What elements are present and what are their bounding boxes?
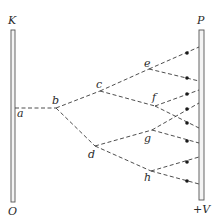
electron-dot [185, 160, 189, 164]
path-g-p6 [152, 130, 199, 143]
path-c-f [100, 91, 155, 106]
path-e-p2 [149, 69, 199, 81]
path-h-p8 [151, 171, 199, 184]
anode-bottom-label: +V [193, 203, 211, 216]
path-f-p3 [155, 90, 199, 106]
electron-dot [185, 121, 189, 125]
node-label-e: e [144, 57, 151, 70]
path-h-p7 [151, 157, 199, 171]
node-label-f: f [151, 91, 158, 104]
path-c-e [100, 69, 149, 91]
node-label-c: c [96, 78, 102, 91]
node-label-d: d [88, 148, 95, 161]
cathode-electrode [11, 30, 15, 202]
electron-dots [185, 51, 189, 183]
electron-dot [185, 76, 189, 80]
electron-dot [185, 92, 189, 96]
anode-electrode [199, 30, 204, 200]
node-label-b: b [52, 94, 59, 107]
avalanche-diagram: K O P +V a b c d e f g h [0, 0, 217, 224]
cathode-bottom-label: O [8, 205, 17, 218]
path-d-h [95, 146, 151, 171]
electron-paths [15, 47, 199, 184]
node-label-g: g [144, 132, 151, 145]
path-g-p4 [152, 103, 199, 130]
path-e-p1 [149, 47, 199, 69]
path-b-d [56, 108, 95, 146]
node-label-a: a [17, 107, 24, 120]
electron-dot [185, 51, 189, 55]
cathode-top-label: K [7, 14, 17, 27]
node-label-h: h [144, 171, 151, 184]
electron-dot [185, 179, 189, 183]
path-f-p5 [155, 106, 199, 128]
path-b-c [56, 91, 100, 108]
anode-top-label: P [196, 14, 205, 27]
electron-dot [185, 107, 189, 111]
electron-dot [185, 139, 189, 143]
